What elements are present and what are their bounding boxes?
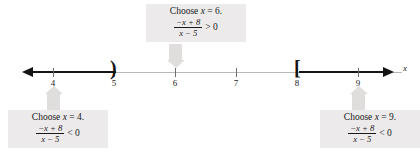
shaded-interval-left [30,71,116,73]
callout-right-denominator: x − 5 [351,135,373,144]
callout-top-prefix: Choose [170,6,201,16]
callout-top-fraction: −x + 8 x − 5 [174,18,202,38]
callout-right-prefix: Choose [344,112,375,122]
tick-7 [236,68,237,77]
tick-4 [53,68,54,77]
connector-arrow-top [169,44,182,60]
callout-box-x9: Choose x = 9. −x + 8 x − 5 < 0 [320,110,420,148]
callout-top-heading: Choose x = 6. [153,7,239,17]
callout-left-suffix: = 4. [67,112,84,122]
callout-right-numerator: −x + 8 [348,124,376,133]
callout-right-fraction: −x + 8 x − 5 [348,124,376,144]
callout-left-heading: Choose x = 4. [15,113,101,123]
callout-left-numerator: −x + 8 [36,124,64,133]
callout-left-relation: < 0 [67,129,79,139]
callout-top-relation: > 0 [205,23,217,33]
tick-label-7: 7 [226,78,246,88]
connector-arrow-right [352,94,365,110]
callout-left-prefix: Choose [32,112,63,122]
callout-right-inequality: −x + 8 x − 5 < 0 [327,124,413,144]
callout-left-fraction: −x + 8 x − 5 [36,124,64,144]
arrowhead-left-icon [22,67,33,77]
callout-box-x6: Choose x = 6. −x + 8 x − 5 > 0 [146,4,246,42]
callout-top-inequality: −x + 8 x − 5 > 0 [153,18,239,38]
arrowhead-right-icon [383,67,394,77]
bracket-open-paren-at-5: ) [110,58,117,78]
tick-9 [358,68,359,77]
callout-right-heading: Choose x = 9. [327,113,413,123]
callout-right-relation: < 0 [379,129,391,139]
callout-top-suffix: = 6. [205,6,222,16]
callout-left-inequality: −x + 8 x − 5 < 0 [15,124,101,144]
bracket-closed-at-8: [ [294,58,301,78]
axis-label-x: x [403,63,407,73]
tick-6 [175,68,176,77]
tick-label-6: 6 [165,78,185,88]
callout-top-numerator: −x + 8 [174,18,202,27]
tick-label-5: 5 [104,78,124,88]
tick-label-8: 8 [287,78,307,88]
connector-arrow-left [47,94,60,110]
callout-left-denominator: x − 5 [39,135,61,144]
callout-top-denominator: x − 5 [177,29,199,38]
callout-right-suffix: = 9. [379,112,396,122]
callout-box-x4: Choose x = 4. −x + 8 x − 5 < 0 [8,110,108,148]
shaded-interval-right [299,71,386,73]
